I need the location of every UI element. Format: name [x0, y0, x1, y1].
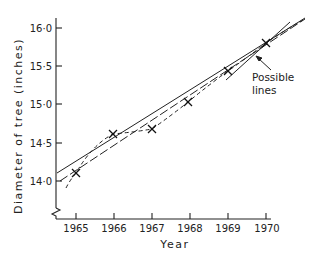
x-axis [56, 213, 271, 219]
point-1969 [224, 67, 232, 75]
y-tick-labels: 16·0 15·5 15·0 14·5 14·0 [30, 23, 52, 187]
y-tick-14-0: 14·0 [30, 176, 52, 187]
long-dash-fit-line [60, 19, 305, 181]
point-1968 [184, 98, 192, 106]
tree-diameter-chart: 16·0 15·5 15·0 14·5 14·0 1965 1966 1967 … [0, 0, 315, 256]
x-tick-1970: 1970 [254, 223, 279, 234]
x-tick-1966: 1966 [101, 223, 126, 234]
annotation-lines: lines [252, 84, 276, 96]
point-1970 [262, 39, 270, 47]
y-tick-16-0: 16·0 [30, 23, 52, 34]
y-axis-title: Diameter of tree (inches) [12, 38, 25, 214]
x-tick-1967: 1967 [139, 223, 164, 234]
y-tick-15-0: 15·0 [30, 99, 52, 110]
x-axis-title: Year [159, 238, 189, 251]
possible-lines [57, 18, 305, 188]
annotation-arrow [256, 56, 271, 70]
x-tick-1968: 1968 [177, 223, 202, 234]
point-1966 [109, 130, 117, 138]
y-axis [52, 18, 62, 219]
annotation-possible: Possible [252, 71, 294, 83]
x-tick-1969: 1969 [215, 223, 240, 234]
x-tick-labels: 1965 1966 1967 1968 1969 1970 [63, 223, 279, 234]
y-tick-14-5: 14·5 [30, 138, 52, 149]
x-tick-1965: 1965 [63, 223, 88, 234]
y-tick-15-5: 15·5 [30, 61, 52, 72]
